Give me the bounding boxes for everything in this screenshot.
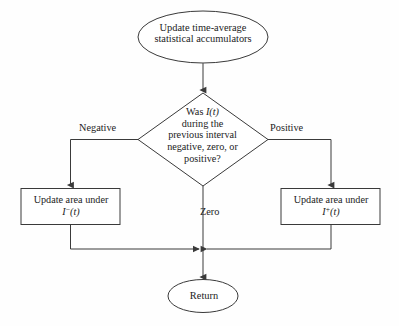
- edge-label-positive: Positive: [270, 122, 303, 133]
- decision-line1-symbol: I(t): [206, 106, 219, 117]
- decision-line1-prefix: Was: [186, 106, 206, 117]
- right-process-symbol: I+(t): [282, 206, 380, 218]
- edge-negative-branch: [71, 140, 139, 186]
- left-process-line1: Update area under: [22, 194, 120, 206]
- decision-line3: previous interval: [146, 129, 259, 141]
- return-ellipse-label: Return: [170, 290, 238, 301]
- left-process-label: Update area under I−(t): [22, 194, 120, 218]
- start-ellipse-line1: Update time-average: [139, 22, 267, 33]
- decision-line5: positive?: [146, 153, 259, 165]
- decision-line1: Was I(t): [146, 106, 259, 118]
- left-process-symbol: I−(t): [22, 206, 120, 218]
- edge-label-zero: Zero: [200, 206, 219, 217]
- edge-positive-branch: [268, 140, 331, 186]
- decision-line4: negative, zero, or: [146, 141, 259, 153]
- edge-left-box-to-merge: [71, 225, 200, 250]
- decision-line2: during the: [146, 118, 259, 130]
- right-process-line1: Update area under: [282, 194, 380, 206]
- start-ellipse-line2: statistical accumulators: [139, 33, 267, 44]
- start-ellipse-label: Update time-average statistical accumula…: [139, 22, 267, 44]
- left-symbol-arg: (t): [70, 206, 80, 217]
- edge-right-box-to-merge: [207, 225, 331, 250]
- edge-label-negative: Negative: [79, 122, 116, 133]
- flowchart-diagram: Update time-average statistical accumula…: [0, 0, 399, 326]
- right-symbol-arg: (t): [330, 206, 340, 217]
- right-process-label: Update area under I+(t): [282, 194, 380, 218]
- decision-diamond-label: Was I(t) during the previous interval ne…: [146, 106, 259, 164]
